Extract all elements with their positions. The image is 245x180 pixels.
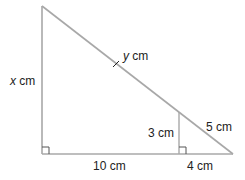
- base-left-label: 10 cm: [93, 159, 126, 173]
- hypotenuse-label: y cm: [122, 49, 148, 63]
- hypotenuse-line: [42, 6, 233, 154]
- inner-height-label: 3 cm: [148, 126, 174, 140]
- left-side-label: x cm: [9, 74, 35, 88]
- left-side-unit: cm: [16, 74, 35, 88]
- hypotenuse-unit: cm: [129, 49, 148, 63]
- right-angle-marker-inner: [179, 147, 186, 154]
- base-right-label: 4 cm: [187, 159, 213, 173]
- triangle-diagram: x cm y cm 3 cm 5 cm 10 cm 4 cm: [0, 0, 245, 180]
- inner-hypotenuse-label: 5 cm: [206, 120, 232, 134]
- right-angle-marker-left: [42, 147, 49, 154]
